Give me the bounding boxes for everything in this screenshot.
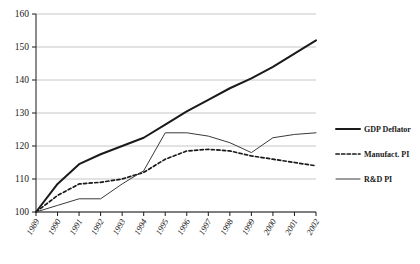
y-axis-tick-label: 130 (15, 108, 30, 118)
legend-label: R&D PI (364, 175, 392, 184)
line-chart: 100110120130140150160 198919901991199219… (0, 0, 420, 264)
y-axis-tick-label: 100 (15, 207, 30, 217)
y-axis-tick-label: 110 (15, 174, 29, 184)
legend-label: GDP Deflator (364, 125, 411, 134)
y-axis-tick-label: 140 (15, 75, 30, 85)
y-axis-tick-label: 150 (15, 42, 30, 52)
chart-container: 100110120130140150160 198919901991199219… (0, 0, 420, 264)
y-axis-tick-label: 160 (15, 9, 30, 19)
legend-label: Manufact. PI (364, 150, 409, 159)
y-axis-tick-label: 120 (15, 141, 30, 151)
